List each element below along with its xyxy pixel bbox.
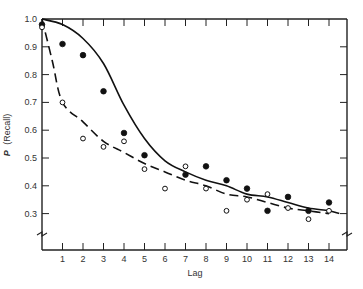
filled-data-point: [285, 194, 291, 200]
y-tick-label: 0.4: [24, 181, 37, 191]
open-data-point: [183, 164, 188, 169]
filled-data-point: [244, 186, 250, 192]
open-data-point: [163, 186, 168, 191]
axis-ticks: [42, 19, 347, 250]
open-data-point: [286, 206, 291, 211]
axis-break-left: [37, 232, 47, 236]
fit-curves: [42, 19, 339, 214]
x-tick-label: 11: [263, 254, 272, 264]
x-tick-label: 4: [121, 254, 126, 264]
x-tick-label: 10: [242, 254, 252, 264]
filled-data-point: [326, 200, 332, 206]
open-data-point: [306, 217, 311, 222]
x-tick-label: 2: [80, 254, 85, 264]
open-data-point: [101, 144, 106, 149]
x-tick-label: 3: [101, 254, 106, 264]
y-axis-title-italic: P: [2, 149, 12, 156]
y-tick-label: 0.5: [24, 153, 37, 163]
y-axis-title-rest: (Recall): [2, 114, 12, 145]
filled-data-point: [183, 172, 189, 178]
filled-data-point: [265, 208, 271, 214]
filled-data-point: [60, 41, 66, 47]
open-data-point: [60, 100, 65, 105]
x-tick-label: 5: [142, 254, 147, 264]
open-data-point: [81, 136, 86, 141]
axis-tick-labels: 12345678910111213141.00.90.80.70.60.50.4…: [24, 14, 334, 264]
open-data-point: [204, 186, 209, 191]
y-tick-label: 0.9: [24, 42, 37, 52]
recall-lag-chart: 12345678910111213141.00.90.80.70.60.50.4…: [0, 0, 363, 289]
y-tick-label: 0.6: [24, 125, 37, 135]
x-tick-label: 7: [183, 254, 188, 264]
axis-break-right: [342, 232, 352, 236]
filled-data-point: [101, 88, 107, 94]
x-tick-label: 6: [162, 254, 167, 264]
y-tick-label: 1.0: [24, 14, 37, 24]
filled-data-point: [203, 164, 209, 170]
open-data-point: [265, 192, 270, 197]
x-axis-title: Lag: [187, 268, 202, 278]
fit-dashed-line: [42, 19, 329, 214]
x-tick-label: 13: [303, 254, 313, 264]
x-tick-label: 8: [203, 254, 208, 264]
filled-data-point: [224, 177, 230, 183]
x-tick-label: 9: [224, 254, 229, 264]
filled-data-point: [142, 152, 148, 158]
fit-solid-line: [42, 19, 339, 214]
open-data-point: [245, 197, 250, 202]
filled-data-point: [306, 208, 312, 214]
x-tick-label: 12: [283, 254, 293, 264]
filled-data-point: [80, 52, 86, 58]
open-data-point: [122, 139, 127, 144]
open-data-point: [40, 25, 45, 30]
x-tick-label: 1: [60, 254, 65, 264]
y-tick-label: 0.8: [24, 70, 37, 80]
open-data-point: [327, 208, 332, 213]
y-axis-title: P (Recall): [2, 114, 12, 157]
open-data-point: [142, 167, 147, 172]
y-tick-label: 0.7: [24, 97, 37, 107]
x-tick-label: 14: [324, 254, 334, 264]
filled-data-point: [121, 130, 127, 136]
open-data-point: [224, 208, 229, 213]
y-tick-label: 0.3: [24, 209, 37, 219]
